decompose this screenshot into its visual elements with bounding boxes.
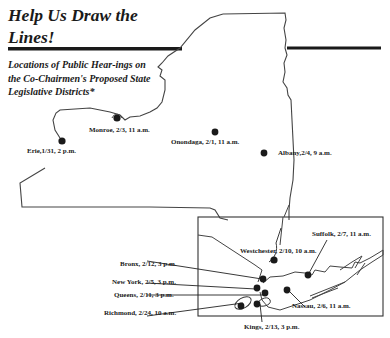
label-westchester: Westchester, 2/10, 10 a.m. xyxy=(240,247,317,255)
fire-island xyxy=(310,282,345,298)
label-new-york: New York, 2/5, 3 p.m. xyxy=(112,278,176,286)
title-rule-left xyxy=(8,47,182,51)
label-richmond: Richmond, 2/24, 10 a.m. xyxy=(104,309,176,317)
label-queens: Queens, 2/11, 3 p.m. xyxy=(114,291,174,299)
label-kings: Kings, 2/13, 3 p.m. xyxy=(244,323,299,331)
label-albany: Albany,2/4, 9 a.m. xyxy=(278,149,332,157)
label-erie: Erie,1/31, 2 p.m. xyxy=(27,147,76,155)
marker-kings xyxy=(254,301,261,308)
marker-richmond xyxy=(238,303,245,310)
long-island-east-fork xyxy=(340,256,365,275)
marker-nassau xyxy=(284,287,291,294)
title-rule-right xyxy=(287,47,381,50)
inset-nj-border xyxy=(198,235,262,282)
marker-erie xyxy=(58,137,65,144)
marker-bronx xyxy=(260,276,267,283)
marker-westchester xyxy=(270,256,277,263)
marker-suffolk xyxy=(305,272,312,279)
label-monroe: Monroe, 2/3, 11 a.m. xyxy=(89,126,150,134)
label-onondaga: Onondaga, 2/1, 11 a.m. xyxy=(171,138,239,146)
marker-onondaga xyxy=(212,129,219,136)
label-bronx: Bronx, 2/12, 3 p.m. xyxy=(120,260,176,268)
inset-connector xyxy=(284,205,289,217)
marker-new-york xyxy=(254,285,261,292)
new-york-state-map xyxy=(0,0,390,338)
state-outline xyxy=(20,13,294,220)
marker-monroe xyxy=(113,114,120,121)
label-suffolk: Suffolk, 2/7, 11 a.m. xyxy=(312,230,371,238)
marker-queens xyxy=(262,290,269,297)
marker-albany xyxy=(261,150,268,157)
long-island-outline xyxy=(260,250,383,310)
label-nassau: Nassau, 2/6, 11 a.m. xyxy=(292,302,351,310)
